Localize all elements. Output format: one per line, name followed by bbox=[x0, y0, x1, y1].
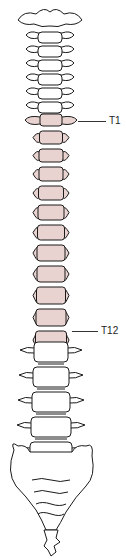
thoracic-vertebra bbox=[40, 131, 63, 144]
coccyx bbox=[44, 530, 60, 556]
cervical-vertebra bbox=[38, 46, 62, 57]
sacrum bbox=[10, 444, 93, 530]
cervical-vertebra bbox=[38, 74, 62, 85]
t12-leader-line bbox=[72, 331, 98, 332]
cervical-vertebra bbox=[38, 102, 62, 113]
cervical-vertebra bbox=[38, 88, 62, 99]
thoracic-vertebra bbox=[38, 225, 65, 240]
thoracic-vertebra bbox=[39, 167, 63, 181]
t1-leader-line bbox=[78, 121, 106, 122]
spine-illustration bbox=[0, 0, 126, 560]
lumbar-vertebra bbox=[31, 417, 71, 437]
thoracic-vertebra bbox=[39, 186, 64, 200]
thoracic-vertebra bbox=[38, 205, 64, 220]
thoracic-vertebra bbox=[39, 149, 63, 162]
spine-diagram: T1 T12 bbox=[0, 0, 126, 560]
thoracic-vertebra bbox=[37, 266, 65, 282]
atlas-vertebra bbox=[18, 9, 82, 26]
lumbar-vertebra bbox=[33, 367, 69, 387]
thoracic-vertebra bbox=[36, 309, 66, 326]
thoracic-vertebra bbox=[37, 287, 66, 304]
thoracic-vertebra bbox=[40, 114, 62, 126]
cervical-vertebra bbox=[38, 60, 62, 71]
lumbar-vertebra bbox=[34, 342, 68, 362]
cervical-vertebra bbox=[38, 32, 62, 43]
label-t1: T1 bbox=[109, 116, 121, 126]
lumbar-vertebra bbox=[32, 392, 70, 412]
thoracic-vertebra bbox=[37, 245, 65, 261]
label-t12: T12 bbox=[101, 326, 118, 336]
